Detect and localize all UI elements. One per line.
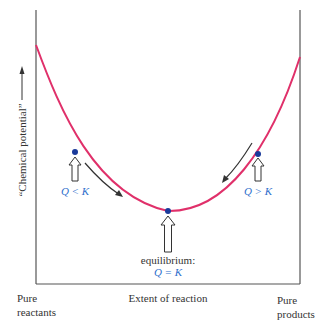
right-point-label: Q > K bbox=[244, 185, 272, 198]
equilibrium-point-marker bbox=[165, 208, 171, 214]
x-axis-label: Extent of reaction bbox=[129, 292, 208, 305]
right-hollow-arrow-icon bbox=[252, 158, 264, 181]
left-point-marker bbox=[72, 149, 78, 155]
diagram-canvas bbox=[0, 0, 323, 330]
right-point-marker bbox=[255, 151, 261, 157]
x-left-label-line2: reactants bbox=[17, 306, 56, 319]
y-axis-up-arrow-icon bbox=[20, 66, 25, 100]
left-point-label: Q < K bbox=[61, 185, 89, 198]
equilibrium-hollow-arrow-icon bbox=[161, 216, 175, 252]
x-right-label-line2: products bbox=[277, 308, 315, 321]
y-axis-label: “Chemical potential” bbox=[16, 103, 28, 196]
left-hollow-arrow-icon bbox=[69, 157, 81, 181]
equilibrium-condition-label: Q = K bbox=[154, 266, 182, 279]
x-right-label-line1: Pure bbox=[277, 294, 297, 307]
left-direction-arrow-icon bbox=[85, 163, 123, 197]
x-left-label-line1: Pure bbox=[17, 292, 37, 305]
